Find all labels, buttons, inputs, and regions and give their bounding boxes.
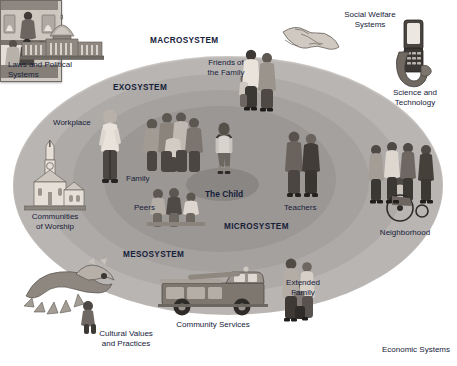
welfare-line-2: Systems (355, 20, 386, 29)
mobile-phone-hand-illustration (391, 18, 435, 88)
label-science-and-technology: Science andTechnology (382, 88, 448, 108)
label-extended-family: ExtendedFamily (276, 278, 330, 297)
family-group-illustration (140, 110, 208, 178)
capitol-building-illustration (20, 12, 104, 60)
child-figure-illustration (211, 122, 237, 180)
label-workplace: Workplace (53, 118, 91, 128)
laws-line-2: Systems (8, 70, 39, 79)
friends-line-1: Friends of (208, 58, 244, 67)
worship-line-2: of Worship (36, 222, 74, 231)
label-friends-of-the-family: Friends ofthe Family (198, 58, 254, 77)
label-community-services: Community Services (172, 320, 254, 330)
label-laws-and-political-systems: Laws and PoliticalSystems (8, 60, 92, 80)
friends-line-2: the Family (208, 68, 245, 77)
extended-line-1: Extended (286, 278, 320, 287)
label-economic-systems: Economic Systems (378, 345, 454, 355)
church-building-illustration (24, 140, 86, 212)
fire-truck-illustration (158, 265, 268, 321)
label-peers: Peers (134, 203, 155, 213)
science-line-2: Technology (395, 98, 435, 107)
worship-line-1: Communities (32, 212, 79, 221)
label-macrosystem: MACROSYSTEM (150, 36, 218, 45)
label-exosystem: EXOSYSTEM (113, 83, 167, 92)
label-microsystem: MICROSYSTEM (224, 222, 289, 231)
label-communities-of-worship: Communitiesof Worship (24, 212, 86, 232)
dragon-dancer-illustration (18, 258, 124, 336)
laws-line-1: Laws and Political (8, 60, 72, 69)
label-the-child: The Child (205, 190, 243, 200)
cultural-line-2: and Practices (102, 339, 150, 348)
handshake-illustration (281, 20, 341, 58)
ecological-systems-diagram: MACROSYSTEM EXOSYSTEM MESOSYSTEM MICROSY… (0, 0, 457, 366)
label-cultural-values-and-practices: Cultural Valuesand Practices (88, 329, 164, 349)
teachers-group-illustration (282, 128, 324, 202)
label-mesosystem: MESOSYSTEM (123, 250, 184, 259)
label-teachers: Teachers (284, 203, 316, 213)
label-neighborhood: Neighborhood (370, 228, 440, 238)
workplace-figure-illustration (96, 107, 124, 195)
welfare-line-1: Social Welfare (344, 10, 395, 19)
extended-line-2: Family (291, 288, 315, 297)
label-family: Family (126, 174, 150, 184)
neighborhood-group-illustration (366, 138, 446, 228)
science-line-1: Science and (393, 88, 437, 97)
cultural-line-1: Cultural Values (99, 329, 153, 338)
